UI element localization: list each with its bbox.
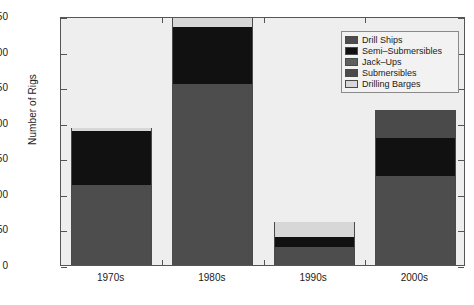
legend-swatch-icon xyxy=(345,36,358,44)
y-axis-tick-label: 50 xyxy=(0,225,8,235)
y-axis-tick xyxy=(61,125,67,126)
y-axis-tick-label: 300 xyxy=(0,48,8,58)
x-axis-tick-label: 1990s xyxy=(273,272,353,283)
bar-segment-semi-submersibles[interactable] xyxy=(173,27,252,83)
x-axis-tick-label: 1970s xyxy=(71,272,151,283)
x-axis-tick xyxy=(365,18,366,23)
x-axis-tick xyxy=(365,260,366,265)
bar-segment-drill-ships[interactable] xyxy=(275,247,354,265)
bar-segment-drilling-barges[interactable] xyxy=(72,128,151,131)
legend-item-label: Drilling Barges xyxy=(362,80,421,89)
legend-swatch-icon xyxy=(345,69,358,77)
y-axis-tick-label: 200 xyxy=(0,119,8,129)
y-axis-title: Number of Rigs xyxy=(27,40,38,180)
y-axis-tick xyxy=(61,160,67,161)
bar-2000s[interactable] xyxy=(375,110,456,265)
legend-item-label: Jack–Ups xyxy=(362,58,402,67)
bar-1980s[interactable] xyxy=(172,18,253,265)
x-axis-tick xyxy=(264,18,265,23)
x-axis-tick xyxy=(162,260,163,265)
y-axis-tick xyxy=(61,196,67,197)
x-axis-tick-label: 1980s xyxy=(172,272,252,283)
legend-item[interactable]: Semi–Submersibles xyxy=(345,46,454,56)
y-axis-tick xyxy=(61,89,67,90)
bar-1990s[interactable] xyxy=(274,222,355,265)
legend-swatch-icon xyxy=(345,58,358,66)
y-axis-tick-label: 350 xyxy=(0,12,8,22)
y-axis-tick-label: 0 xyxy=(0,261,8,271)
figure: Number of Rigs 050100150200250300350 197… xyxy=(0,0,474,305)
chart-legend: Drill ShipsSemi–SubmersiblesJack–UpsSubm… xyxy=(341,31,459,93)
y-axis-tick xyxy=(458,18,464,19)
y-axis-tick xyxy=(458,160,464,161)
y-axis-tick xyxy=(458,267,464,268)
legend-swatch-icon xyxy=(345,80,358,88)
bar-segment-drilling-barges[interactable] xyxy=(173,18,252,27)
legend-item[interactable]: Jack–Ups xyxy=(345,57,454,67)
y-axis-tick xyxy=(61,18,67,19)
bar-segment-semi-submersibles[interactable] xyxy=(275,237,354,248)
y-axis-tick xyxy=(61,267,67,268)
x-axis-tick xyxy=(264,260,265,265)
legend-item-label: Drill Ships xyxy=(362,36,403,45)
x-axis-tick-label: 2000s xyxy=(374,272,454,283)
bar-segment-drill-ships[interactable] xyxy=(173,84,252,265)
y-axis-tick xyxy=(61,231,67,232)
y-axis-tick-label: 100 xyxy=(0,190,8,200)
legend-item[interactable]: Drill Ships xyxy=(345,35,454,45)
bar-segment-semi-submersibles[interactable] xyxy=(376,138,455,176)
x-axis-tick xyxy=(162,18,163,23)
y-axis-tick xyxy=(61,54,67,55)
bar-segment-semi-submersibles[interactable] xyxy=(72,131,151,186)
bar-segment-submersibles[interactable] xyxy=(376,110,455,138)
legend-item[interactable]: Submersibles xyxy=(345,68,454,78)
y-axis-tick xyxy=(458,125,464,126)
bar-segment-drilling-barges[interactable] xyxy=(275,222,354,237)
legend-item-label: Submersibles xyxy=(362,69,417,78)
y-axis-tick xyxy=(458,196,464,197)
legend-item[interactable]: Drilling Barges xyxy=(345,79,454,89)
y-axis-tick xyxy=(458,231,464,232)
bar-1970s[interactable] xyxy=(71,128,152,265)
y-axis-tick-label: 150 xyxy=(0,154,8,164)
bar-segment-drill-ships[interactable] xyxy=(72,185,151,265)
legend-item-label: Semi–Submersibles xyxy=(362,47,442,56)
legend-swatch-icon xyxy=(345,47,358,55)
bar-segment-drill-ships[interactable] xyxy=(376,176,455,265)
y-axis-tick-label: 250 xyxy=(0,83,8,93)
